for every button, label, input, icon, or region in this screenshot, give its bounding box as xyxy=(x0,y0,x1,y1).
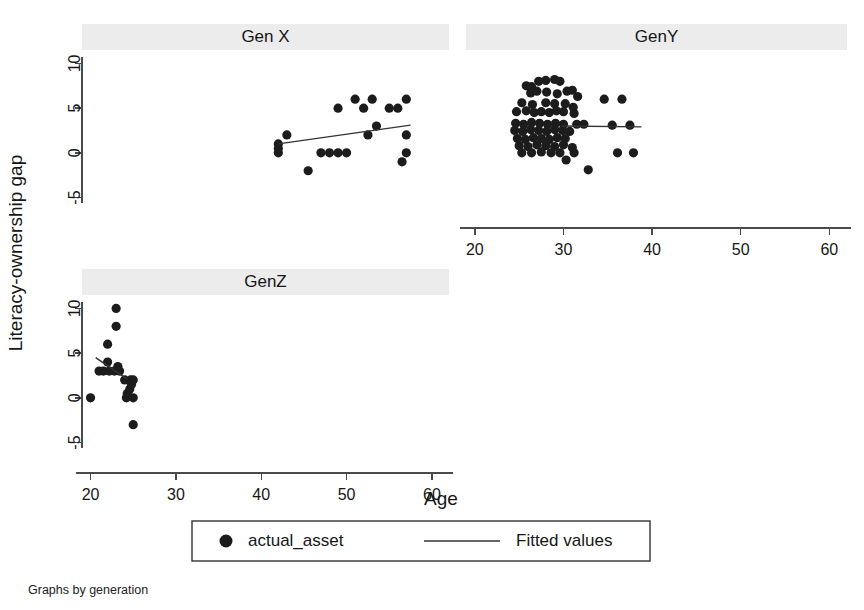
data-point xyxy=(559,107,568,116)
legend-label-fitted-values: Fitted values xyxy=(516,531,612,550)
scatter-points xyxy=(510,75,638,175)
y-tick-label: 0 xyxy=(66,148,83,157)
data-point xyxy=(129,393,138,402)
data-point xyxy=(561,99,570,108)
data-point xyxy=(517,148,526,157)
x-tick-label: 30 xyxy=(555,241,573,258)
data-point xyxy=(512,107,521,116)
data-point xyxy=(541,76,550,85)
data-point xyxy=(553,89,562,98)
data-point xyxy=(526,125,535,134)
panel-gen-x: Gen X-50510 xyxy=(66,24,449,205)
data-point xyxy=(570,109,579,118)
data-point xyxy=(304,166,313,175)
data-point xyxy=(510,126,519,135)
data-point xyxy=(608,121,617,130)
data-point xyxy=(550,125,559,134)
panel-title-genz: GenZ xyxy=(244,272,287,291)
data-point xyxy=(522,106,531,115)
data-point xyxy=(584,165,593,174)
scatter-points xyxy=(86,304,138,429)
data-point xyxy=(541,98,550,107)
data-point xyxy=(542,87,551,96)
data-point xyxy=(112,322,121,331)
data-point xyxy=(546,148,555,157)
data-point xyxy=(333,104,342,113)
data-point xyxy=(573,92,582,101)
data-point xyxy=(629,148,638,157)
x-tick-label: 40 xyxy=(252,486,270,503)
x-tick-label: 30 xyxy=(167,486,185,503)
data-point xyxy=(617,95,626,104)
data-point xyxy=(559,140,568,149)
data-point xyxy=(282,130,291,139)
x-tick-label: 20 xyxy=(82,486,100,503)
panel-title-gen-x: Gen X xyxy=(241,27,289,46)
data-point xyxy=(333,148,342,157)
legend: actual_assetFitted values xyxy=(192,521,650,561)
data-point xyxy=(359,104,368,113)
x-axis-title: Age xyxy=(424,488,458,509)
y-tick-label: 5 xyxy=(66,349,83,358)
x-tick-label: 50 xyxy=(338,486,356,503)
x-tick-label: 60 xyxy=(820,241,838,258)
y-tick-label: 5 xyxy=(66,104,83,113)
data-point xyxy=(112,304,121,313)
y-tick-label: 0 xyxy=(66,393,83,402)
data-point xyxy=(86,393,95,402)
x-tick-label: 50 xyxy=(732,241,750,258)
data-point xyxy=(527,148,536,157)
data-point xyxy=(537,107,546,116)
data-point xyxy=(402,148,411,157)
chart-canvas: Gen X-50510GenY2030405060GenZ-5051020304… xyxy=(0,0,864,610)
data-point xyxy=(393,104,402,113)
y-tick-label: 10 xyxy=(66,54,83,72)
data-point xyxy=(402,95,411,104)
data-point xyxy=(397,157,406,166)
x-tick-label: 20 xyxy=(466,241,484,258)
data-point xyxy=(274,148,283,157)
legend-marker-icon xyxy=(220,535,233,548)
panel-genz: GenZ-505102030405060 xyxy=(66,269,453,503)
data-point xyxy=(555,77,564,86)
panel-title-geny: GenY xyxy=(635,27,678,46)
data-point xyxy=(368,95,377,104)
x-tick-label: 40 xyxy=(643,241,661,258)
data-point xyxy=(562,155,571,164)
data-point xyxy=(625,121,634,130)
fitted-values-line xyxy=(278,125,410,144)
y-tick-label: -5 xyxy=(66,190,83,204)
stata-scatter-figure: Gen X-50510GenY2030405060GenZ-5051020304… xyxy=(0,0,864,610)
data-point xyxy=(537,147,546,156)
data-point xyxy=(402,130,411,139)
data-point xyxy=(129,375,138,384)
data-point xyxy=(351,95,360,104)
panel-geny: GenY2030405060 xyxy=(460,24,851,258)
data-point xyxy=(316,148,325,157)
data-point xyxy=(129,420,138,429)
data-point xyxy=(103,340,112,349)
data-point xyxy=(613,148,622,157)
data-point xyxy=(555,148,564,157)
y-tick-label: 10 xyxy=(66,299,83,317)
data-point xyxy=(579,120,588,129)
fitted-values-line xyxy=(562,126,642,127)
data-point xyxy=(553,133,562,142)
y-axis-title: Literacy-ownership gap xyxy=(5,155,26,351)
y-tick-label: -5 xyxy=(66,435,83,449)
data-point xyxy=(325,148,334,157)
legend-label-actual-asset: actual_asset xyxy=(248,531,344,550)
data-point xyxy=(517,98,526,107)
data-point xyxy=(600,95,609,104)
data-point xyxy=(385,104,394,113)
data-point xyxy=(570,148,579,157)
data-point xyxy=(532,87,541,96)
data-point xyxy=(342,148,351,157)
figure-caption: Graphs by generation xyxy=(28,583,148,597)
